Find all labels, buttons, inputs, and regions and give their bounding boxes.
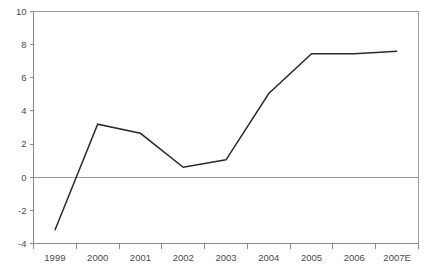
y-tick-label: -4 xyxy=(18,238,26,249)
x-tick-label: 2006 xyxy=(344,252,365,263)
y-tick-label: 10 xyxy=(16,6,27,17)
y-tick-label: -2 xyxy=(18,205,26,216)
x-tick-label: 2003 xyxy=(215,252,236,263)
x-tick-label: 2005 xyxy=(301,252,322,263)
x-tick-label: 2001 xyxy=(130,252,151,263)
chart-background xyxy=(0,0,428,277)
x-tick-label: 2002 xyxy=(173,252,194,263)
y-tick-label: 4 xyxy=(21,105,26,116)
y-tick-label: 2 xyxy=(21,138,26,149)
y-tick-label: 0 xyxy=(21,172,26,183)
x-tick-label: 1999 xyxy=(44,252,65,263)
y-tick-label: 6 xyxy=(21,72,26,83)
line-chart: -4-20246810 1999200020012002200320042005… xyxy=(0,0,428,277)
x-tick-label: 2004 xyxy=(258,252,279,263)
x-tick-label: 2007E xyxy=(383,252,410,263)
x-tick-label: 2000 xyxy=(87,252,108,263)
x-axis-tick-labels: 199920002001200220032004200520062007E xyxy=(44,252,411,263)
y-tick-label: 8 xyxy=(21,39,26,50)
chart-canvas: -4-20246810 1999200020012002200320042005… xyxy=(0,0,428,277)
